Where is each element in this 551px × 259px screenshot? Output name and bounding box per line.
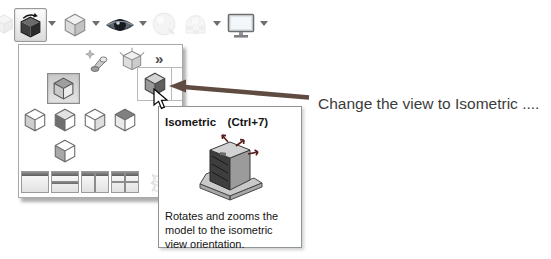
view-orientation-dropdown-arrow[interactable] [48,21,56,26]
eye-icon [104,13,136,37]
ghost-cube-icon [0,13,15,35]
viewport-two-vertical-button[interactable] [80,169,110,195]
appearance-sphere-icon [151,11,178,38]
viewport-two-horizontal-button[interactable] [50,169,80,195]
isometric-model-preview-image [192,132,268,204]
view-left-button[interactable] [80,105,110,135]
flyout-expand-chevron[interactable]: » [155,51,163,66]
viewport-single-button[interactable] [20,169,50,195]
view-right-button[interactable] [110,105,140,135]
four-viewport-icon [111,171,139,193]
front-cube-icon [22,107,48,133]
scene-icon [182,11,209,38]
right-cube-icon [112,107,138,133]
new-view-icon [84,48,110,72]
view-orientation-cube-icon [18,13,43,38]
tooltip-preview [165,132,295,204]
view-orientation-button[interactable] [14,8,47,42]
single-viewport-icon [21,171,49,193]
normal-to-cube-icon [51,76,76,101]
clipped-toolbar-icon [0,13,15,35]
viewport-four-button[interactable] [110,169,140,195]
isometric-tooltip: Isometric (Ctrl+7) Rotates [158,106,302,248]
view-back-button[interactable] [50,105,80,135]
edit-appearance-button [150,10,179,39]
annotation-text: Change the view to Isometric .... [318,95,548,113]
left-cube-icon [82,107,108,133]
view-front-button[interactable] [20,105,50,135]
display-style-button[interactable] [60,10,89,39]
two-viewport-vertical-icon [81,171,109,193]
view-normal-to-button[interactable] [47,73,80,104]
mouse-cursor-icon [153,88,173,110]
hide-show-items-dropdown-arrow[interactable] [139,21,147,26]
solidworks-view-toolbar-screenshot: » [0,0,551,259]
tooltip-shortcut: (Ctrl+7) [228,116,269,128]
tooltip-title-row: Isometric (Ctrl+7) [165,112,295,130]
two-viewport-horizontal-icon [51,171,79,193]
apply-scene-dropdown-arrow [213,21,221,26]
view-settings-dropdown-arrow[interactable] [260,21,268,26]
tooltip-title: Isometric [165,116,216,128]
display-style-dropdown-arrow[interactable] [92,21,100,26]
view-bottom-button[interactable] [50,136,80,166]
hide-show-items-button[interactable] [103,12,136,38]
new-view-button[interactable] [83,47,111,73]
view-settings-button[interactable] [226,12,256,39]
display-style-cube-icon [62,12,88,38]
tooltip-description: Rotates and zooms the model to the isome… [165,209,295,251]
monitor-icon [227,13,255,39]
bottom-cube-icon [52,138,78,164]
apply-scene-button [181,10,210,39]
back-cube-icon [52,107,78,133]
